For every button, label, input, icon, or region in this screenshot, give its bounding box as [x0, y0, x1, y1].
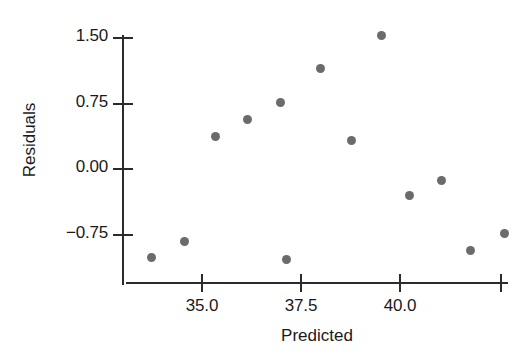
data-point	[211, 132, 220, 141]
data-point	[466, 246, 475, 255]
data-point	[500, 229, 509, 238]
residual-scatter-plot: 1.50 0.75 0.00 −0.75 35.0 37.5 40.0 Resi…	[0, 0, 530, 361]
data-point	[243, 115, 252, 124]
data-point	[282, 255, 291, 264]
data-point	[405, 191, 414, 200]
data-point	[316, 64, 325, 73]
data-point	[180, 237, 189, 246]
plot-area	[0, 0, 530, 361]
data-point	[147, 253, 156, 262]
data-point	[437, 176, 446, 185]
data-point	[276, 98, 285, 107]
data-point	[347, 136, 356, 145]
data-point	[377, 31, 386, 40]
